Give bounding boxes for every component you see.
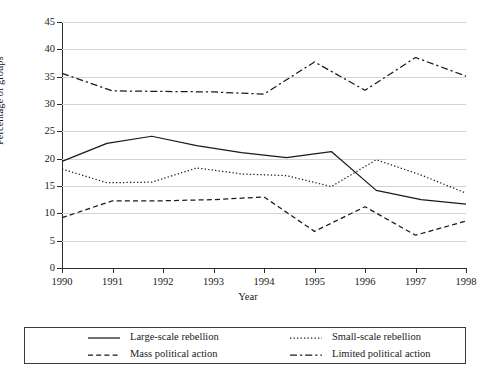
x-axis-title: Year <box>0 291 496 302</box>
y-axis-tick-label: 45 <box>45 17 56 28</box>
legend-line-swatch <box>87 351 121 359</box>
series-line <box>62 160 466 193</box>
x-axis-tick <box>365 268 366 273</box>
legend-label: Limited political action <box>332 349 431 360</box>
x-axis-tick <box>315 268 316 273</box>
series-line <box>62 136 466 204</box>
x-axis-tick <box>163 268 164 273</box>
legend-line-swatch <box>289 334 323 342</box>
legend-item[interactable]: Limited political action <box>245 349 465 360</box>
x-axis-tick-label: 1990 <box>52 277 73 288</box>
series-line <box>62 58 466 95</box>
x-axis-tick <box>214 268 215 273</box>
x-axis-tick-label: 1996 <box>355 277 376 288</box>
plot-area: 051015202530354045 199019911992199319941… <box>62 22 466 268</box>
y-axis-title: Percentage of groups <box>0 56 5 145</box>
data-series-layer <box>62 22 466 268</box>
legend-line-swatch <box>289 351 323 359</box>
x-axis-tick-label: 1991 <box>102 277 123 288</box>
legend-item[interactable]: Large-scale rebellion <box>25 332 245 343</box>
x-axis-tick <box>62 268 63 273</box>
legend: Large-scale rebellionSmall-scale rebelli… <box>24 327 466 364</box>
legend-label: Large-scale rebellion <box>130 332 219 343</box>
y-axis-tick-label: 30 <box>45 99 56 110</box>
y-axis-tick-label: 40 <box>45 44 56 55</box>
legend-item[interactable]: Small-scale rebellion <box>245 332 465 343</box>
y-axis-tick-label: 20 <box>45 153 56 164</box>
x-axis-tick <box>416 268 417 273</box>
x-axis-tick-label: 1998 <box>456 277 477 288</box>
x-axis-tick <box>113 268 114 273</box>
x-axis-tick-label: 1992 <box>153 277 174 288</box>
y-axis-tick-label: 0 <box>50 263 55 274</box>
legend-label: Mass political action <box>130 349 217 360</box>
x-axis-tick <box>466 268 467 273</box>
x-axis-tick <box>264 268 265 273</box>
legend-item[interactable]: Mass political action <box>25 349 245 360</box>
legend-line-swatch <box>87 334 121 342</box>
series-line <box>62 197 466 235</box>
y-axis-tick-label: 35 <box>45 71 56 82</box>
x-axis-tick-label: 1997 <box>405 277 426 288</box>
y-axis-tick-label: 15 <box>45 181 56 192</box>
y-axis-tick-label: 10 <box>45 208 56 219</box>
y-axis-tick-label: 5 <box>50 235 55 246</box>
x-axis-tick-label: 1993 <box>203 277 224 288</box>
x-axis-tick-label: 1995 <box>304 277 325 288</box>
y-axis-tick-label: 25 <box>45 126 56 137</box>
line-chart: Percentage of groups 051015202530354045 … <box>0 0 496 372</box>
x-axis-tick-label: 1994 <box>254 277 275 288</box>
legend-label: Small-scale rebellion <box>332 332 421 343</box>
